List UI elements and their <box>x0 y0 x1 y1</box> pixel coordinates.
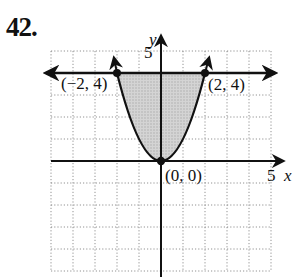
point-origin <box>157 157 165 165</box>
point-left <box>113 69 121 77</box>
point-left-label: (−2, 4) <box>61 74 107 93</box>
point-right-label: (2, 4) <box>208 75 245 94</box>
x-tick-5: 5 <box>267 166 276 185</box>
graph: y 5 5 x (−2, 4) (2, 4) (0, 0) <box>0 0 306 279</box>
point-origin-label: (0, 0) <box>165 166 202 185</box>
x-axis-label: x <box>283 166 292 185</box>
y-tick-5: 5 <box>144 43 153 62</box>
